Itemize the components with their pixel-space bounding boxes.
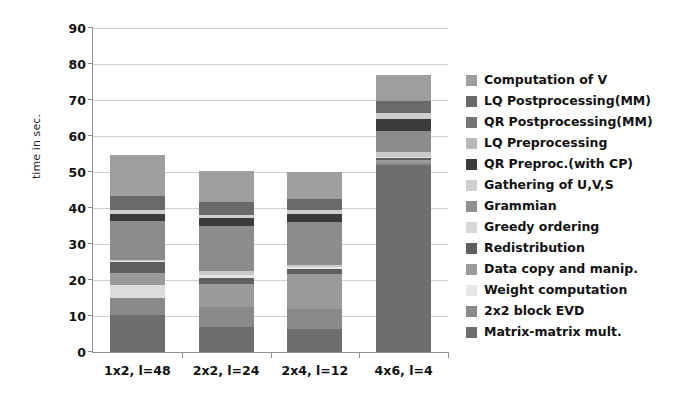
legend-swatch-icon	[466, 222, 477, 233]
x-tick-mark	[182, 352, 183, 358]
y-tick-mark	[88, 27, 93, 28]
legend-item: Gathering of U,V,S	[466, 175, 682, 196]
y-tick-mark	[88, 243, 93, 244]
y-tick-mark	[88, 351, 93, 352]
legend-item: LQ Preprocessing	[466, 133, 682, 154]
stacked-bar-chart-figure: time in sec. 01020304050607080901x2, l=4…	[0, 0, 688, 411]
legend-item: QR Preproc.(with CP)	[466, 154, 682, 175]
chart-legend: Computation of VLQ Postprocessing(MM)QR …	[466, 70, 682, 343]
legend-label: QR Postprocessing(MM)	[484, 116, 653, 129]
legend-item: Data copy and manip.	[466, 259, 682, 280]
bar-segment	[376, 131, 431, 152]
y-tick-mark	[88, 135, 93, 136]
legend-item: Matrix-matrix mult.	[466, 322, 682, 343]
bar-segment	[287, 309, 342, 329]
bar-segment	[110, 155, 165, 196]
x-tick-mark	[448, 352, 449, 358]
legend-swatch-icon	[466, 285, 477, 296]
x-tick-label: 1x2, l=48	[104, 363, 171, 378]
legend-item: Grammian	[466, 196, 682, 217]
bar-segment	[199, 171, 254, 203]
bar-4	[376, 75, 431, 352]
bar-segment	[110, 273, 165, 285]
y-tick-mark	[88, 99, 93, 100]
bar-segment	[376, 101, 431, 113]
legend-label: Grammian	[484, 200, 557, 213]
bar-3	[287, 172, 342, 352]
bar-segment	[199, 284, 254, 308]
y-tick-label: 10	[69, 309, 86, 324]
legend-label: Redistribution	[484, 242, 585, 255]
legend-item: 2x2 block EVD	[466, 301, 682, 322]
y-tick-label: 20	[69, 273, 86, 288]
legend-item: LQ Postprocessing(MM)	[466, 91, 682, 112]
bar-segment	[287, 222, 342, 265]
y-tick-label: 70	[69, 93, 86, 108]
legend-label: 2x2 block EVD	[484, 305, 584, 318]
legend-item: Weight computation	[466, 280, 682, 301]
bar-1	[110, 155, 165, 352]
gridline	[93, 64, 448, 65]
bar-segment	[376, 119, 431, 131]
bar-segment	[376, 165, 431, 352]
legend-swatch-icon	[466, 96, 477, 107]
y-tick-label: 40	[69, 201, 86, 216]
legend-label: Matrix-matrix mult.	[484, 326, 622, 339]
plot-area: 01020304050607080901x2, l=482x2, l=242x4…	[92, 28, 448, 353]
legend-item: Computation of V	[466, 70, 682, 91]
y-tick-label: 30	[69, 237, 86, 252]
legend-swatch-icon	[466, 327, 477, 338]
x-tick-mark	[359, 352, 360, 358]
bar-segment	[110, 214, 165, 221]
legend-label: Gathering of U,V,S	[484, 179, 614, 192]
y-tick-label: 90	[69, 21, 86, 36]
bar-segment	[110, 262, 165, 272]
bar-segment	[199, 218, 254, 226]
legend-swatch-icon	[466, 180, 477, 191]
bar-segment	[110, 221, 165, 259]
legend-label: Weight computation	[484, 284, 627, 297]
bar-segment	[110, 196, 165, 210]
gridline	[93, 28, 448, 29]
y-tick-mark	[88, 171, 93, 172]
legend-item: Redistribution	[466, 238, 682, 259]
legend-swatch-icon	[466, 201, 477, 212]
legend-swatch-icon	[466, 117, 477, 128]
y-tick-label: 0	[77, 345, 86, 360]
legend-swatch-icon	[466, 243, 477, 254]
legend-item: Greedy ordering	[466, 217, 682, 238]
y-axis-title: time in sec.	[30, 87, 43, 207]
bar-segment	[199, 202, 254, 214]
bar-segment	[287, 329, 342, 352]
x-tick-mark	[271, 352, 272, 358]
legend-label: QR Preproc.(with CP)	[484, 158, 633, 171]
legend-item: QR Postprocessing(MM)	[466, 112, 682, 133]
bar-segment	[199, 327, 254, 352]
x-tick-label: 4x6, l=4	[375, 363, 433, 378]
x-tick-label: 2x2, l=24	[193, 363, 260, 378]
legend-label: Greedy ordering	[484, 221, 599, 234]
bar-segment	[110, 315, 165, 352]
legend-label: LQ Preprocessing	[484, 137, 607, 150]
legend-swatch-icon	[466, 138, 477, 149]
legend-label: LQ Postprocessing(MM)	[484, 95, 651, 108]
legend-swatch-icon	[466, 264, 477, 275]
y-tick-mark	[88, 279, 93, 280]
y-tick-label: 50	[69, 165, 86, 180]
bar-segment	[287, 199, 342, 209]
legend-swatch-icon	[466, 159, 477, 170]
y-tick-mark	[88, 315, 93, 316]
legend-swatch-icon	[466, 75, 477, 86]
y-tick-label: 60	[69, 129, 86, 144]
legend-label: Computation of V	[484, 74, 607, 87]
bar-segment	[287, 214, 342, 222]
bar-segment	[110, 285, 165, 298]
y-tick-label: 80	[69, 57, 86, 72]
bar-segment	[287, 172, 342, 199]
bar-segment	[110, 298, 165, 315]
legend-swatch-icon	[466, 306, 477, 317]
bar-segment	[287, 274, 342, 309]
bar-segment	[199, 307, 254, 326]
bar-segment	[376, 75, 431, 101]
x-tick-label: 2x4, l=12	[282, 363, 349, 378]
